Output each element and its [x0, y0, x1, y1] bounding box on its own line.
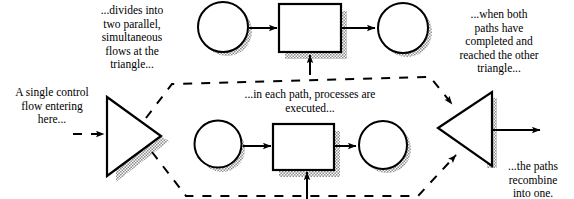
top-circle-end: [378, 3, 428, 53]
caption-divides-into-two-parallel-flows: ...divides into two parallel, simultaneo…: [72, 4, 192, 72]
bottom-circle-start: [195, 121, 242, 168]
top-circle-start: [198, 2, 248, 52]
bottom-rectangle-process: [273, 124, 334, 170]
caption-in-each-path-processes-executed: ...in each path, processes are executed.…: [212, 88, 408, 115]
caption-single-control-flow-entering: A single control flow entering here...: [0, 86, 104, 127]
caption-when-both-paths-completed: ...when both paths have completed and re…: [432, 8, 566, 76]
bottom-circle-end: [359, 121, 407, 169]
caption-paths-recombine-into-one: ...the paths recombine into one.: [492, 160, 574, 199]
join-triangle: [438, 92, 492, 166]
diagram-canvas: ...divides into two parallel, simultaneo…: [0, 0, 574, 199]
top-rectangle-process: [279, 4, 341, 52]
